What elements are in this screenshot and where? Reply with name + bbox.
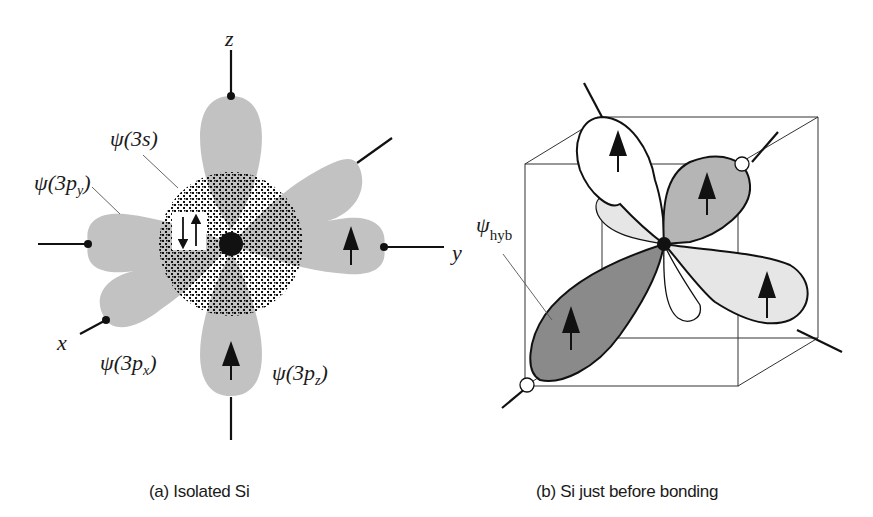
psi-3px-label: ψ(3px) [100, 350, 157, 378]
bond-site-circle-lower-left [520, 378, 534, 392]
z-axis-label: z [224, 26, 234, 51]
bond-site-circle-upper-right [735, 157, 749, 171]
panel-b-si-before-bonding: ψhyb [476, 83, 842, 408]
x-axis-line [80, 320, 106, 334]
caption-panel-b: (b) Si just before bonding [536, 482, 718, 502]
psi-hyb-leader-line [503, 254, 552, 320]
psi-3s-label: ψ(3s) [110, 126, 158, 151]
py-leader-line [92, 187, 120, 214]
s-orbital [159, 172, 303, 316]
y-axis-label: y [450, 240, 462, 265]
s-leader-line [143, 155, 178, 188]
nucleus-dot-b [657, 237, 671, 251]
diag-axis-line [357, 138, 392, 163]
hybrid-lobe-lower-left [530, 244, 664, 381]
x-axis-label: x [56, 330, 67, 355]
orbital-figure: z y x ψ(3s) ψ(3py) ψ(3px) ψ(3pz) [0, 0, 873, 517]
psi-3py-label: ψ(3py) [34, 170, 91, 198]
psi-3pz-label: ψ(3pz) [272, 360, 328, 388]
s-orbital-spin-box [172, 212, 206, 250]
psi-hyb-label: ψhyb [476, 212, 512, 243]
bond-line-upper-right [752, 132, 778, 162]
bond-line-lower-right [797, 330, 842, 352]
panel-a-isolated-si: z y x ψ(3s) ψ(3py) ψ(3px) ψ(3pz) [34, 26, 462, 440]
bond-line-upper-left [584, 83, 602, 117]
caption-panel-a: (a) Isolated Si [149, 482, 249, 502]
nucleus-dot [219, 232, 243, 256]
